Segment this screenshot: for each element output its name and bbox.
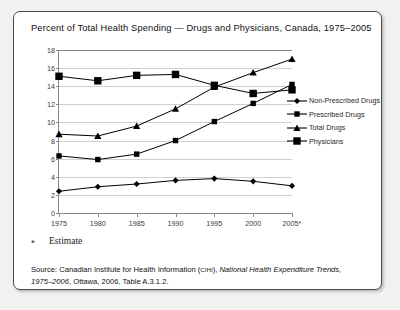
- x-tick-label: 2000: [245, 219, 261, 228]
- y-tick-label: 0: [51, 209, 55, 218]
- y-tick-label: 14: [47, 82, 55, 91]
- y-tick-label: 6: [51, 154, 55, 163]
- y-tick-label: 12: [47, 100, 55, 109]
- x-tick-mark: [176, 213, 177, 217]
- legend-item: Total Drugs: [286, 121, 386, 135]
- legend-label: Total Drugs: [308, 123, 345, 132]
- y-tick-label: 18: [47, 46, 55, 55]
- y-tick-label: 10: [47, 118, 55, 127]
- plot-frame: 024681012141618 197519801985199019952000…: [58, 50, 292, 214]
- screenshot-root: Percent of Total Health Spending — Drugs…: [0, 0, 400, 310]
- series-non-prescribed-drugs: [56, 175, 295, 194]
- source-note: Source: Canadian Institute for Health In…: [31, 264, 351, 287]
- y-tick-label: 2: [51, 190, 55, 199]
- legend-label: Non-Prescribed Drugs: [308, 96, 380, 105]
- x-tick-mark: [98, 213, 99, 217]
- y-tick-label: 4: [51, 172, 55, 181]
- x-tick-mark: [253, 213, 254, 217]
- legend-label: Physicians: [308, 137, 343, 146]
- chart-title: Percent of Total Health Spending — Drugs…: [31, 23, 372, 33]
- chart-legend: Non-Prescribed DrugsPrescribed DrugsTota…: [286, 94, 386, 148]
- legend-item: Prescribed Drugs: [286, 108, 386, 122]
- x-tick-label: 1985: [129, 219, 145, 228]
- source-suffix: , Ottawa, 2006, Table A.3.1.2.: [69, 277, 169, 286]
- source-acronym: CIHI: [200, 266, 212, 273]
- x-tick-mark: [214, 213, 215, 217]
- series-prescribed-drugs: [56, 82, 294, 163]
- x-tick-label: 2005*: [283, 219, 302, 228]
- series-physicians: [55, 71, 295, 97]
- legend-label: Prescribed Drugs: [308, 110, 365, 119]
- y-tick-label: 16: [47, 64, 55, 73]
- x-tick-label: 1980: [90, 219, 106, 228]
- chart-card: Percent of Total Health Spending — Drugs…: [13, 11, 382, 290]
- footnote-marker: *: [31, 237, 35, 248]
- series-total-drugs: [55, 55, 295, 139]
- legend-marker-icon: [286, 122, 308, 134]
- x-tick-mark: [137, 213, 138, 217]
- series-layer: [59, 50, 292, 213]
- source-prefix: Source: Canadian Institute for Health In…: [31, 265, 200, 274]
- legend-marker-icon: [286, 95, 308, 107]
- x-tick-label: 1975: [51, 219, 67, 228]
- legend-item: Physicians: [286, 135, 386, 149]
- legend-marker-icon: [286, 108, 308, 120]
- x-tick-mark: [292, 213, 293, 217]
- y-tick-label: 8: [51, 136, 55, 145]
- x-tick-label: 1995: [206, 219, 222, 228]
- x-tick-mark: [59, 213, 60, 217]
- legend-marker-icon: [286, 135, 308, 147]
- footnote-text: Estimate: [49, 236, 82, 246]
- x-tick-label: 1990: [168, 219, 184, 228]
- legend-item: Non-Prescribed Drugs: [286, 94, 386, 108]
